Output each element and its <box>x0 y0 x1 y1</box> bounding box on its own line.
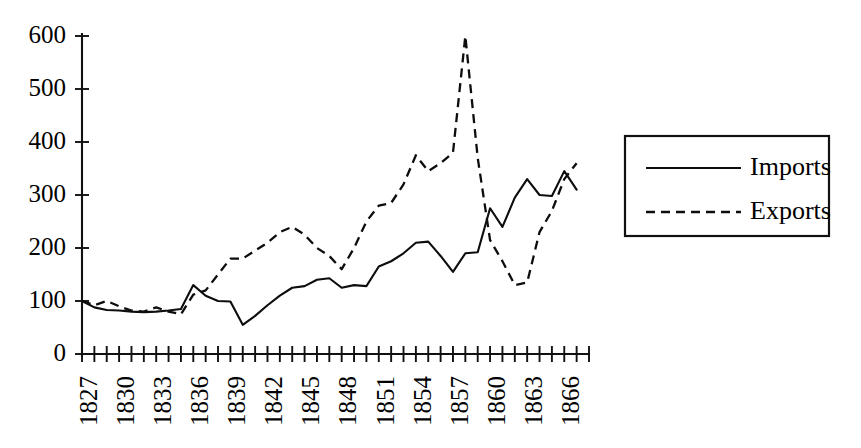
x-tick-label: 1839 <box>223 376 250 426</box>
x-tick-label: 1863 <box>520 376 547 426</box>
chart-figure: 0100200300400500600 18271830183318361839… <box>0 0 861 448</box>
x-tick-label: 1833 <box>149 376 176 426</box>
x-tick-label: 1848 <box>334 376 361 426</box>
y-tick-label: 300 <box>29 180 67 207</box>
chart-svg: 0100200300400500600 18271830183318361839… <box>0 0 861 448</box>
y-tick-label: 100 <box>29 286 67 313</box>
x-tick-label: 1830 <box>112 376 139 426</box>
y-tick-label: 500 <box>29 74 67 101</box>
y-axis: 0100200300400500600 <box>29 21 90 366</box>
y-tick-label: 0 <box>54 339 67 366</box>
x-tick-label: 1845 <box>297 376 324 426</box>
x-tick-label-group: 1827183018331836183918421845184818511854… <box>75 376 584 427</box>
x-tick-label: 1866 <box>557 376 584 426</box>
x-axis: 1827183018331836183918421845184818511854… <box>75 346 589 426</box>
y-tick-label: 400 <box>29 127 67 154</box>
x-tick-label: 1860 <box>483 376 510 426</box>
series-line-exports <box>82 36 577 314</box>
plot-series-group <box>82 36 577 325</box>
x-tick-label: 1851 <box>372 376 399 426</box>
x-tick-label: 1827 <box>75 376 102 426</box>
x-tick-label: 1854 <box>409 376 436 427</box>
legend: Imports Exports <box>625 136 831 236</box>
legend-label-imports: Imports <box>750 152 831 181</box>
x-tick-label: 1842 <box>260 376 287 426</box>
x-tick-label: 1836 <box>186 376 213 426</box>
y-tick-label-group: 0100200300400500600 <box>29 21 67 366</box>
series-line-imports <box>82 171 577 325</box>
y-tick-label: 200 <box>29 233 67 260</box>
x-tick-label: 1857 <box>446 376 473 426</box>
legend-label-exports: Exports <box>750 196 831 225</box>
y-tick-label: 600 <box>29 21 67 48</box>
